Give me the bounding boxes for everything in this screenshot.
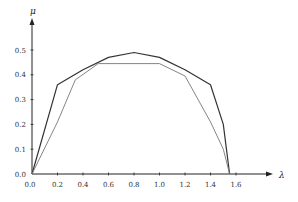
y-tick-label: 0.1 [15,146,26,154]
x-ticks: 0.00.20.40.60.81.01.21.41.6 [24,173,242,190]
x-axis-arrow-icon [266,172,273,177]
x-tick-label: 1.0 [154,181,165,189]
series-group [32,53,230,175]
x-tick-label: 0.8 [128,181,139,189]
x-tick-label: 0.2 [52,181,63,189]
y-tick-label: 0.4 [15,71,27,79]
y-tick-label: 0.0 [15,171,26,179]
y-tick-label: 0.2 [15,121,26,129]
axes: μ λ [30,6,285,180]
y-axis-label: μ [30,6,36,16]
x-axis-label: λ [278,170,285,180]
x-tick-label: 1.4 [205,181,217,189]
line-chart: μ λ 0.00.20.40.60.81.01.21.41.6 0.00.10.… [0,0,298,202]
y-ticks: 0.00.10.20.30.40.5 [15,47,34,179]
y-tick-label: 0.5 [15,47,26,55]
y-tick-label: 0.3 [15,96,26,104]
x-tick-label: 0.4 [77,181,89,189]
x-tick-label: 1.6 [230,181,242,189]
x-tick-label: 0.6 [103,181,115,189]
y-axis-arrow-icon [30,18,35,25]
x-tick-label: 1.2 [179,181,190,189]
x-tick-label: 0.0 [24,181,35,189]
series-line-inner-polyline [32,64,230,174]
